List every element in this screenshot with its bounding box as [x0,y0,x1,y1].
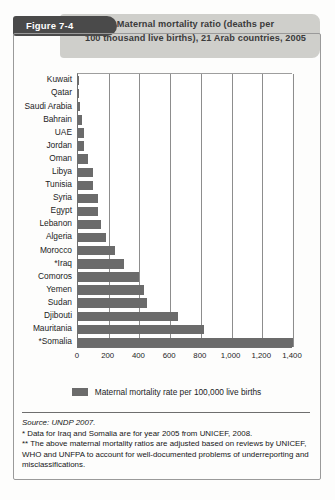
gridline [170,74,171,347]
bar [78,259,124,268]
x-axis-tick-label: 800 [193,351,206,360]
bar-chart: KuwaitQatarSaudi ArabiaBahrainUAEJordanO… [13,70,320,360]
bar [78,89,79,98]
y-axis-label: Bahrain [43,113,72,125]
bar [78,76,79,85]
bar [78,181,93,190]
gridline [262,74,263,347]
figure-number-label: Figure 7-4 [13,16,117,31]
gridline [293,74,294,347]
y-axis-label: Lebanon [39,217,72,229]
bar [78,102,80,111]
x-axis-ticks: 02004006008001,0001,2001,400 [77,351,307,365]
chart-legend: Maternal mortality rate per 100,000 live… [13,385,320,399]
y-axis-label: Algeria [46,230,72,242]
figure-footer: Source: UNDP 2007. * Data for Iraq and S… [22,418,314,471]
bar [78,168,93,177]
y-axis-label: Qatar [51,86,72,98]
footer-note-1: * Data for Iraq and Somalia are for year… [22,429,314,440]
y-axis-label: Mauritania [33,322,72,334]
y-axis-label: Jordan [46,139,72,151]
bar [78,298,147,307]
legend-label: Maternal mortality rate per 100,000 live… [95,387,261,397]
plot-area [77,73,292,348]
bar [78,312,178,321]
y-axis-label: Libya [52,165,72,177]
x-axis-tick-label: 0 [75,351,79,360]
x-axis-tick-label: 1,200 [252,351,272,360]
y-axis-label: Egypt [51,204,72,216]
x-axis-tick-label: 200 [101,351,114,360]
y-axis-label: Syria [53,191,72,203]
bar [78,115,82,124]
bar [78,246,115,255]
bar [78,220,101,229]
y-axis-label: Saudi Arabia [25,100,73,112]
y-axis-label: Yemen [46,283,72,295]
y-axis-label: Comoros [38,270,72,282]
bar [78,285,144,294]
y-axis-label: *Somalia [38,335,72,347]
gridline [201,74,202,347]
x-axis-tick-label: 400 [132,351,145,360]
y-axis-label: Tunisia [45,178,72,190]
y-axis-label: UAE [55,126,72,138]
x-axis-tick-label: 600 [163,351,176,360]
y-axis-label: *Iraq [54,257,72,269]
y-axis-labels: KuwaitQatarSaudi ArabiaBahrainUAEJordanO… [13,70,75,348]
x-axis-tick-label: 1,000 [221,351,241,360]
legend-swatch [72,388,88,396]
y-axis-label: Morocco [40,244,72,256]
y-axis-label: Djibouti [44,309,72,321]
bar [78,194,98,203]
bar [78,272,139,281]
bar [78,154,88,163]
bar [78,141,84,150]
gridline [232,74,233,347]
bar [78,128,84,137]
bar [78,338,293,347]
bar [78,325,204,334]
y-axis-label: Kuwait [47,73,72,85]
y-axis-label: Sudan [48,296,72,308]
bar [78,233,106,242]
footer-divider [22,412,310,413]
footer-source: Source: UNDP 2007. [22,418,314,429]
y-axis-label: Oman [49,152,72,164]
x-axis-tick-label: 1,400 [282,351,302,360]
footer-note-2: ** The above maternal mortality ratios a… [22,439,314,471]
bar [78,207,98,216]
figure-title-line1: Maternal mortality ratio (deaths per [117,19,274,29]
figure-page: Maternal mortality ratio (deaths per 100… [0,0,335,500]
